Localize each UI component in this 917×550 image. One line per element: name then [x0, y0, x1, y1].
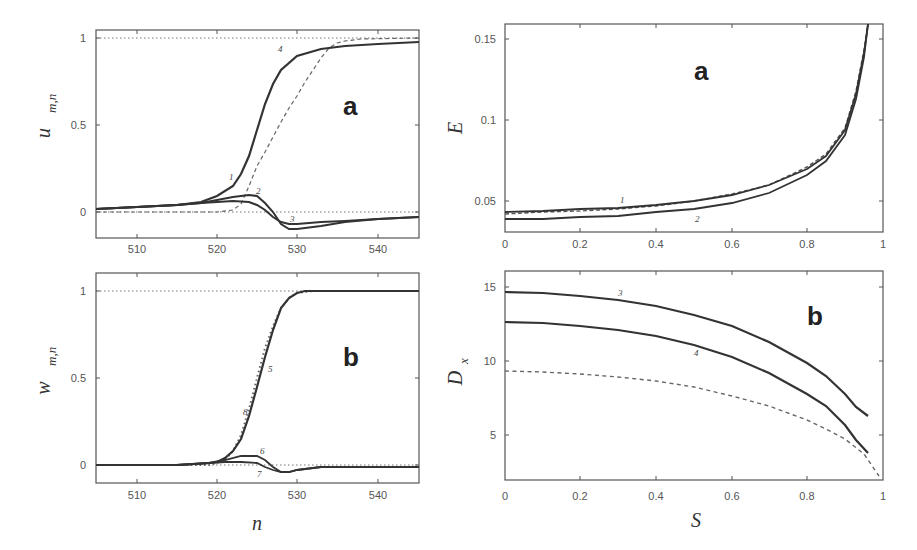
svg-text:D: D — [444, 370, 466, 386]
y-tick-label: 15 — [484, 281, 496, 293]
x-tick-label: 510 — [128, 243, 146, 255]
x-tick-label: 530 — [288, 243, 306, 255]
curve-2 — [505, 24, 868, 219]
svg-text:w: w — [32, 381, 54, 395]
figure: 510 520 530 540 0 0.5 1 u m,n a 1 2 3 4 — [0, 0, 917, 550]
curve-dashed — [505, 24, 868, 214]
plot-frame — [96, 273, 419, 483]
x-tick-label: 520 — [208, 243, 226, 255]
svg-text:E: E — [444, 122, 466, 135]
y-tick-label: 0 — [80, 459, 86, 471]
panel-letter: a — [694, 56, 709, 86]
curve-label: 7 — [257, 469, 262, 479]
curve-1 — [96, 42, 419, 209]
y-tick-label: 0.05 — [475, 195, 496, 207]
curve-label: 1 — [620, 195, 625, 205]
x-tick-label: 0 — [502, 490, 508, 502]
x-tick-label: 1 — [880, 238, 886, 250]
y-tick-label: 0.5 — [71, 372, 86, 384]
panel-bottom-right: 0 0.2 0.4 0.6 0.8 1 5 10 15 D x S b 3 4 — [444, 271, 886, 531]
panel-letter: b — [343, 342, 359, 372]
svg-text:u: u — [32, 128, 54, 138]
x-tick-label: 0.2 — [572, 238, 587, 250]
ticks — [96, 273, 419, 483]
curve-label: 8 — [243, 407, 248, 417]
y-tick-label: 1 — [80, 32, 86, 44]
x-tick-label: 540 — [369, 489, 387, 501]
curve-1 — [505, 24, 868, 212]
y-tick-label: 5 — [490, 429, 496, 441]
svg-text:m,n: m,n — [44, 347, 59, 366]
panel-top-left: 510 520 530 540 0 0.5 1 u m,n a 1 2 3 4 — [32, 30, 419, 255]
curve-label: 2 — [695, 214, 700, 224]
y-tick-label: 0.1 — [481, 114, 496, 126]
y-axis-label: w m,n — [32, 347, 59, 395]
panel-letter: b — [807, 301, 823, 331]
x-tick-label: 530 — [288, 489, 306, 501]
panel-bottom-left: 510 520 530 540 0 0.5 1 w m,n n b 5 6 7 … — [32, 273, 419, 534]
curve-5 — [96, 291, 419, 465]
curve-label: 3 — [617, 288, 623, 298]
x-tick-label: 0.4 — [648, 238, 663, 250]
curve-dashed — [505, 371, 879, 476]
x-tick-label: 0.2 — [572, 490, 587, 502]
x-tick-label: 0.6 — [724, 238, 739, 250]
curve-4 — [505, 322, 868, 453]
curve-label: 6 — [260, 446, 265, 456]
x-tick-label: 540 — [369, 243, 387, 255]
y-axis-label: u m,n — [32, 94, 59, 138]
y-axis-label: D x — [444, 358, 471, 386]
x-tick-label: 0 — [502, 238, 508, 250]
curve-8-dotted — [96, 291, 419, 465]
svg-text:m,n: m,n — [44, 94, 59, 113]
panel-top-right: 0 0.2 0.4 0.6 0.8 1 0.05 0.1 0.15 E a 1 … — [444, 24, 886, 250]
svg-text:x: x — [456, 358, 471, 365]
curve-label: 2 — [256, 186, 261, 196]
y-tick-label: 1 — [80, 285, 86, 297]
panel-letter: a — [343, 91, 358, 121]
x-axis-label: S — [691, 509, 701, 531]
y-tick-label: 0.15 — [475, 33, 496, 45]
x-tick-label: 1 — [880, 490, 886, 502]
y-axis-label: E — [444, 122, 466, 135]
y-tick-label: 10 — [484, 355, 496, 367]
x-tick-label: 520 — [208, 489, 226, 501]
x-tick-label: 0.6 — [724, 490, 739, 502]
x-tick-label: 510 — [128, 489, 146, 501]
y-tick-label: 0 — [80, 206, 86, 218]
curve-label: 4 — [694, 348, 699, 358]
x-tick-label: 0.8 — [799, 238, 814, 250]
curve-label: 5 — [268, 364, 273, 374]
curve-label: 1 — [229, 172, 234, 182]
x-axis-label: n — [252, 512, 262, 534]
x-tick-label: 0.8 — [799, 490, 814, 502]
y-tick-label: 0.5 — [71, 119, 86, 131]
x-tick-label: 0.4 — [648, 490, 663, 502]
curve-label: 3 — [289, 214, 295, 224]
curve-label: 4 — [278, 44, 283, 54]
